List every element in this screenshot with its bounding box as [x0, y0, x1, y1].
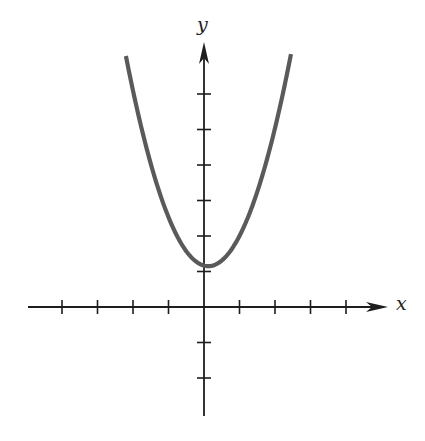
y-axis-label: y [196, 13, 208, 35]
x-axis-label: x [396, 292, 407, 314]
axes [28, 42, 388, 416]
parabola-curve [126, 54, 291, 266]
parabola-chart: x y [0, 0, 425, 441]
